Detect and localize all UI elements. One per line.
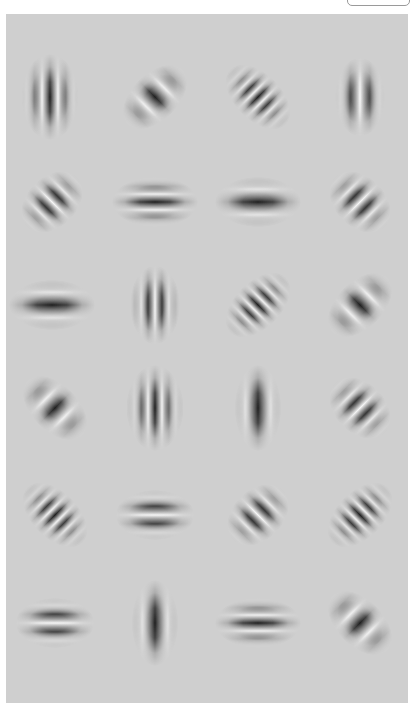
gabor-patch xyxy=(100,147,210,257)
gabor-patch xyxy=(0,250,107,360)
gabor-patch xyxy=(305,460,415,570)
gabor-patch xyxy=(203,460,313,570)
gabor-patch xyxy=(100,460,210,570)
gabor-patch xyxy=(305,353,415,463)
gabor-patch xyxy=(0,460,110,570)
gabor-patch xyxy=(0,42,105,152)
top-right-button[interactable] xyxy=(347,0,410,6)
gabor-patch xyxy=(305,42,415,152)
gabor-patch xyxy=(203,568,313,678)
gabor-filter-grid xyxy=(6,14,408,703)
gabor-patch xyxy=(305,147,415,257)
gabor-patch xyxy=(0,353,110,463)
gabor-patch xyxy=(100,568,210,678)
gabor-patch xyxy=(100,353,210,463)
gabor-patch xyxy=(305,250,415,360)
gabor-patch xyxy=(203,250,313,360)
gabor-patch xyxy=(0,568,110,678)
gabor-patch xyxy=(100,250,210,360)
gabor-patch xyxy=(203,42,313,152)
gabor-patch xyxy=(100,42,210,152)
gabor-patch xyxy=(0,147,107,257)
gabor-patch xyxy=(203,147,313,257)
gabor-patch xyxy=(203,353,313,463)
gabor-patch xyxy=(305,568,415,678)
